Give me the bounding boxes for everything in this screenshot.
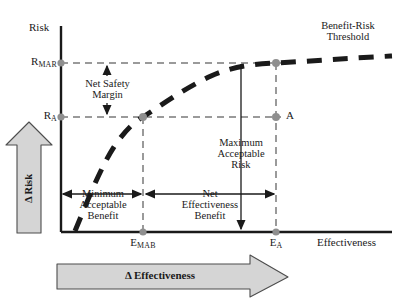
x-tick-sub-e-mab: MAB [137,241,156,250]
minimum-acceptable-benefit-label: Minimum Acceptable Benefit [64,188,142,221]
marker-r-a [57,113,64,120]
minimum-acceptable-benefit-line2: Acceptable [64,199,142,210]
y-tick-label-r-a: RA [6,110,57,123]
net-safety-margin-line1: Net Safety [66,78,149,89]
net-safety-margin-label: Net Safety Margin [66,78,149,100]
marker-point-a [272,113,280,121]
x-tick-label-e-mab: EMAB [113,237,173,250]
net-effectiveness-benefit-line1: Net [163,188,257,199]
minimum-acceptable-benefit-line1: Minimum [64,188,142,199]
marker-r-mar [57,59,64,66]
benefit-risk-threshold-figure: Risk Effectiveness RMAR RA EMAB EA Benef… [0,0,403,299]
x-tick-sub-e-a: A [276,241,282,250]
net-effectiveness-benefit-label: Net Effectiveness Benefit [163,188,257,221]
y-tick-sub-r-mar: MAR [38,60,57,69]
minimum-acceptable-benefit-line3: Benefit [64,210,142,221]
marker-e-mab [139,228,146,235]
marker-point-mab [139,113,147,121]
benefit-risk-threshold-label-line1: Benefit-Risk [295,20,401,31]
y-tick-base-r-a: R [44,109,51,121]
maximum-acceptable-risk-line2: Acceptable [198,148,284,159]
maximum-acceptable-risk-line1: Maximum [198,137,284,148]
delta-effectiveness-arrow-label: Δ Effectiveness [110,270,210,282]
y-tick-label-r-mar: RMAR [6,56,57,69]
benefit-risk-threshold-label-line2: Threshold [295,31,401,42]
y-axis-label: Risk [29,22,49,34]
x-tick-label-e-a: EA [249,237,303,250]
maximum-acceptable-risk-label: Maximum Acceptable Risk [198,137,284,170]
point-a-label: A [286,110,294,122]
y-tick-sub-r-a: A [51,114,57,123]
marker-curve-at-e-a [272,59,280,67]
x-axis-label: Effectiveness [317,237,376,249]
net-safety-margin-line2: Margin [66,89,149,100]
benefit-risk-threshold-label: Benefit-Risk Threshold [295,20,401,42]
delta-risk-arrow-label: Δ Risk [23,154,34,224]
net-effectiveness-benefit-line2: Effectiveness [163,199,257,210]
net-effectiveness-benefit-line3: Benefit [163,210,257,221]
marker-e-a [272,228,279,235]
maximum-acceptable-risk-line3: Risk [198,159,284,170]
